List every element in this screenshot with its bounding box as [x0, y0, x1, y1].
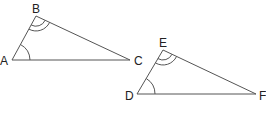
angle-mark-a — [21, 45, 31, 61]
vertex-label-a: A — [0, 55, 8, 67]
vertex-label-c: C — [134, 55, 143, 67]
triangle-def — [137, 50, 256, 94]
vertex-label-e: E — [159, 37, 167, 49]
vertex-label-b: B — [32, 3, 40, 15]
angle-mark-d — [146, 79, 155, 95]
vertex-label-d: D — [125, 90, 134, 102]
vertex-label-f: F — [259, 90, 266, 102]
triangle-abc — [12, 16, 130, 60]
